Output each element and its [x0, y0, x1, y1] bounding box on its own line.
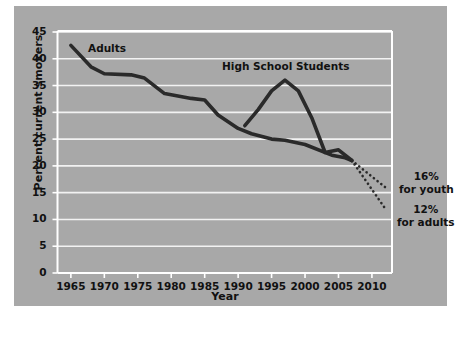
series-line: [245, 80, 352, 160]
y-tick-label: 5: [17, 239, 47, 251]
adults-series-label: Adults: [88, 42, 126, 54]
adults-target-annotation: 12% for adults: [397, 203, 455, 228]
chart-figure: 051015202530354045 196519701975198019851…: [0, 0, 461, 337]
youth-target-value: 16%: [399, 170, 454, 183]
youth-target-annotation: 16% for youth: [399, 170, 454, 195]
x-axis-title: Year: [57, 290, 393, 303]
high-school-series-label: High School Students: [222, 60, 349, 72]
adults-target-caption: for adults: [397, 216, 455, 229]
youth-target-caption: for youth: [399, 183, 454, 196]
y-tick-label: 0: [17, 266, 47, 278]
y-tick-label: 10: [17, 212, 47, 224]
y-axis-title: Percent current smokers: [32, 13, 45, 213]
adults-target-value: 12%: [397, 203, 455, 216]
